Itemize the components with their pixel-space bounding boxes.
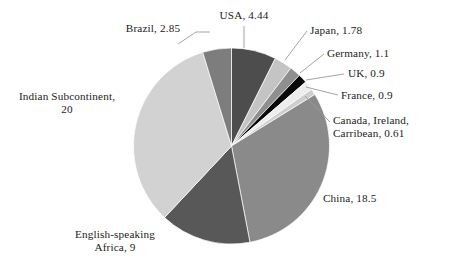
label-germany: Germany, 1.1 [327,47,389,60]
label-france: France, 0.9 [341,89,393,102]
pie-chart: Brazil, 2.85 USA, 4.44 Japan, 1.78 Germa… [0,0,458,276]
label-uk: UK, 0.9 [348,67,385,80]
label-usa: USA, 4.44 [204,9,284,22]
leader-line-japan [285,31,307,60]
label-africa-line1: English-speaking [75,228,155,240]
label-english-speaking-africa: English-speaking Africa, 9 [53,228,177,255]
label-japan: Japan, 1.78 [310,24,362,37]
label-china: China, 18.5 [323,192,377,205]
label-indian-line1: Indian Subcontinent, [19,90,115,102]
label-brazil: Brazil, 2.85 [108,22,198,35]
label-canada-ireland-carribean: Canada, Ireland, Carribean, 0.61 [333,114,409,141]
leader-line-germany [300,54,324,73]
label-indian-line2: 20 [6,103,128,116]
label-africa-line2: Africa, 9 [53,241,177,254]
leader-line-uk [306,74,344,80]
label-canada-line2: Carribean, 0.61 [333,127,409,140]
pie-slices-group [133,48,329,244]
label-indian-subcontinent: Indian Subcontinent, 20 [6,90,128,117]
label-canada-line1: Canada, Ireland, [333,114,409,126]
